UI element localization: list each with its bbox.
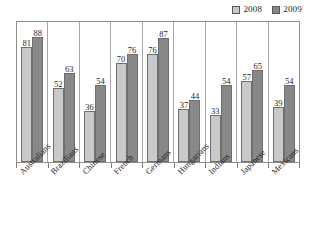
- bar-slot: 70: [116, 22, 127, 162]
- legend-item-2008: 2008: [232, 5, 262, 14]
- bar-value-label: 52: [54, 80, 63, 89]
- grouped-bar-chart: 2008 2009 818852633654707676873744335457…: [0, 0, 314, 239]
- bar-value-label: 33: [211, 107, 220, 116]
- bar-2008: 39: [273, 107, 284, 162]
- bar-value-label: 37: [180, 101, 189, 110]
- bar-2008: 81: [21, 47, 32, 162]
- bar-group: 5765: [237, 22, 268, 162]
- bar-group: 7076: [111, 22, 142, 162]
- bar-value-label: 87: [159, 30, 168, 39]
- bar-slot: 44: [189, 22, 200, 162]
- legend-swatch-2008: [232, 6, 240, 14]
- bar-value-label: 54: [285, 77, 294, 86]
- bar-groups-container: 818852633654707676873744335457653954: [17, 22, 299, 162]
- bar-slot: 81: [21, 22, 32, 162]
- bar-slot: 36: [84, 22, 95, 162]
- bar-slot: 76: [147, 22, 158, 162]
- bar-2008: 37: [178, 109, 189, 162]
- legend-item-2009: 2009: [272, 5, 302, 14]
- bar-slot: 54: [221, 22, 232, 162]
- bar-slot: 57: [241, 22, 252, 162]
- bar-slot: 37: [178, 22, 189, 162]
- bar-slot: 65: [252, 22, 263, 162]
- bar-2008: 76: [147, 54, 158, 162]
- bar-group: 3954: [269, 22, 299, 162]
- bar-2009: 76: [127, 54, 138, 162]
- bar-slot: 76: [127, 22, 138, 162]
- bar-2009: 54: [221, 85, 232, 162]
- bar-2008: 52: [53, 88, 64, 162]
- bar-value-label: 88: [33, 29, 42, 38]
- bar-slot: 88: [32, 22, 43, 162]
- bar-group: 7687: [143, 22, 174, 162]
- legend-label-2008: 2008: [243, 5, 262, 14]
- bar-slot: 87: [158, 22, 169, 162]
- bar-value-label: 76: [128, 46, 137, 55]
- bar-value-label: 70: [117, 55, 126, 64]
- bar-2008: 57: [241, 81, 252, 162]
- bar-value-label: 63: [65, 65, 74, 74]
- bar-value-label: 81: [22, 39, 31, 48]
- bar-value-label: 57: [243, 73, 252, 82]
- legend-swatch-2009: [272, 6, 280, 14]
- bar-group: 3354: [206, 22, 237, 162]
- bar-slot: 33: [210, 22, 221, 162]
- bar-2009: 87: [158, 38, 169, 162]
- bar-slot: 39: [273, 22, 284, 162]
- bar-group: 3654: [80, 22, 111, 162]
- bar-slot: 54: [284, 22, 295, 162]
- chart-legend: 2008 2009: [0, 2, 306, 17]
- category-label-row: AustraliansBraziliansChineseFrenchGerman…: [16, 168, 300, 234]
- bar-value-label: 54: [96, 77, 105, 86]
- bar-group: 3744: [174, 22, 205, 162]
- bar-slot: 52: [53, 22, 64, 162]
- bar-value-label: 36: [85, 103, 94, 112]
- bar-slot: 63: [64, 22, 75, 162]
- legend-label-2009: 2009: [283, 5, 302, 14]
- bar-value-label: 65: [254, 62, 263, 71]
- bar-value-label: 44: [191, 92, 200, 101]
- bar-value-label: 76: [148, 46, 157, 55]
- bar-value-label: 39: [274, 99, 283, 108]
- bar-group: 5263: [48, 22, 79, 162]
- plot-area: 818852633654707676873744335457653954: [16, 21, 300, 163]
- bar-slot: 54: [95, 22, 106, 162]
- bar-value-label: 54: [222, 77, 231, 86]
- bar-2008: 70: [116, 63, 127, 162]
